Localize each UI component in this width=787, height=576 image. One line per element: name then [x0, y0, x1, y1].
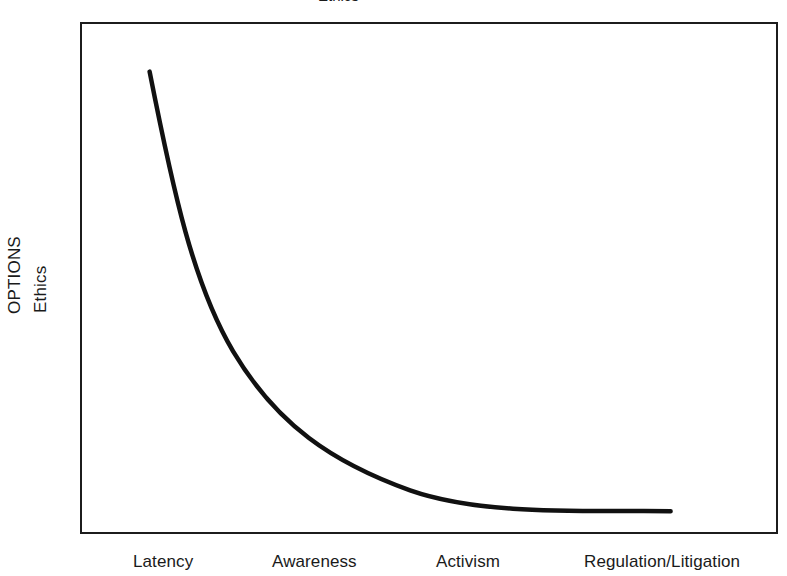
y-axis-label-ethics: Ethics [31, 266, 51, 314]
decay-curve-line [150, 72, 671, 512]
figure-canvas: Ethics OPTIONS Ethics Latency Awareness … [0, 0, 787, 576]
x-axis-label-activism: Activism [436, 552, 500, 572]
plot-area [82, 24, 776, 532]
x-axis-label-regulation-litigation: Regulation/Litigation [584, 552, 740, 572]
x-axis-label-latency: Latency [133, 552, 193, 572]
y-axis-label-options: OPTIONS [5, 236, 25, 314]
cropped-title-fragment: Ethics [318, 0, 408, 4]
plot-frame [80, 22, 778, 534]
x-axis-label-awareness: Awareness [272, 552, 357, 572]
